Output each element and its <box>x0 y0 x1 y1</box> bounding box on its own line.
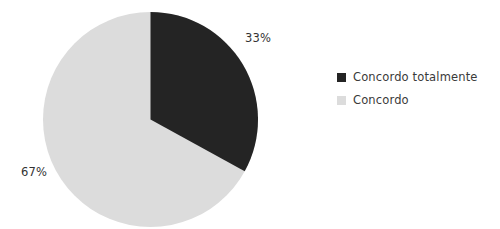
slice-value-label-concordo: 67% <box>21 167 47 179</box>
slice-value-label-concordo-totalmente: 33% <box>245 33 271 45</box>
chart-legend: Concordo totalmente Concordo <box>337 66 497 112</box>
legend-swatch-icon-concordo-totalmente <box>337 73 346 82</box>
legend-item-concordo-totalmente[interactable]: Concordo totalmente <box>337 66 497 89</box>
legend-label-concordo: Concordo <box>353 95 409 107</box>
legend-label-concordo-totalmente: Concordo totalmente <box>353 72 478 84</box>
pie-chart-figure: 33% 67% Concordo totalmente Concordo <box>0 0 500 229</box>
legend-swatch-icon-concordo <box>337 96 346 105</box>
legend-item-concordo[interactable]: Concordo <box>337 89 497 112</box>
